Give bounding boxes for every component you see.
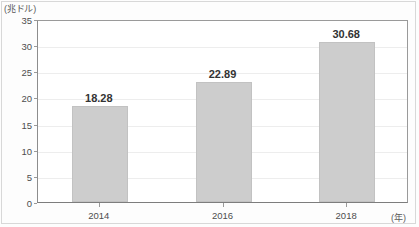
y-axis-tick-mark — [34, 46, 37, 47]
bar-value-label: 22.89 — [209, 68, 237, 80]
y-axis-tick-label: 35 — [4, 15, 32, 26]
bar — [196, 82, 252, 202]
plot-area — [37, 20, 408, 203]
y-axis-tick-mark — [34, 125, 37, 126]
y-axis-tick-label: 30 — [4, 41, 32, 52]
y-axis-unit-label: (兆ドル) — [4, 2, 36, 15]
y-axis-tick-label: 20 — [4, 93, 32, 104]
x-axis-unit-label: (年) — [391, 211, 406, 224]
x-axis-tick-label: 2018 — [336, 210, 357, 221]
y-axis-tick-mark — [34, 72, 37, 73]
bar-value-label: 18.28 — [85, 92, 113, 104]
x-axis-tick-mark — [346, 203, 347, 207]
y-axis-tick-mark — [34, 20, 37, 21]
bar — [319, 42, 375, 202]
x-axis-tick-mark — [223, 203, 224, 207]
y-axis-tick-mark — [34, 177, 37, 178]
bar — [72, 106, 128, 202]
y-axis-tick-mark — [34, 98, 37, 99]
y-axis-tick-label: 15 — [4, 119, 32, 130]
y-axis-tick-label: 0 — [4, 198, 32, 209]
y-axis-tick-mark — [34, 151, 37, 152]
x-axis-tick-mark — [99, 203, 100, 207]
bar-value-label: 30.68 — [332, 28, 360, 40]
y-axis-tick-label: 10 — [4, 145, 32, 156]
x-axis-tick-label: 2016 — [212, 210, 233, 221]
x-axis-tick-label: 2014 — [88, 210, 109, 221]
y-axis-tick-mark — [34, 203, 37, 204]
y-axis-tick-label: 25 — [4, 67, 32, 78]
y-axis-tick-label: 5 — [4, 171, 32, 182]
bar-chart-figure: (兆ドル) 0510152025303518.28201422.89201630… — [0, 0, 419, 227]
